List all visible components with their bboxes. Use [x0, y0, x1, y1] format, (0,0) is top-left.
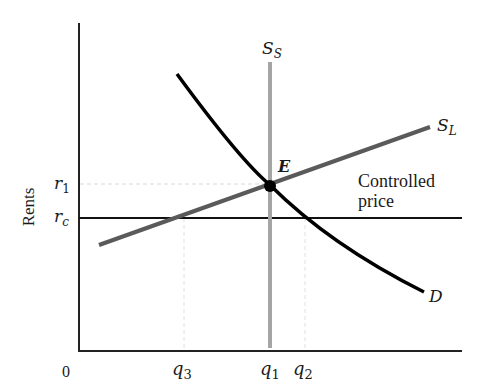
- tick-r1: r1: [54, 173, 70, 196]
- tick-q1: q1: [260, 358, 280, 382]
- tick-q3: q3: [172, 358, 192, 382]
- origin-label: 0: [62, 363, 70, 380]
- short-run-supply-label: SS: [262, 38, 282, 61]
- rent-control-diagram: Rents r1 rc 0 q3 q1 q2 SS SL D E Control…: [0, 0, 480, 392]
- equilibrium-point: [264, 180, 276, 192]
- long-run-supply-label: SL: [437, 115, 457, 138]
- controlled-price-label-line2: price: [358, 191, 394, 211]
- tick-rc: rc: [54, 206, 69, 229]
- controlled-price-label-line1: Controlled: [358, 171, 435, 191]
- y-axis-label: Rents: [19, 188, 38, 227]
- demand-label: D: [428, 286, 443, 306]
- equilibrium-label: E: [277, 157, 291, 176]
- tick-q2: q2: [293, 358, 313, 382]
